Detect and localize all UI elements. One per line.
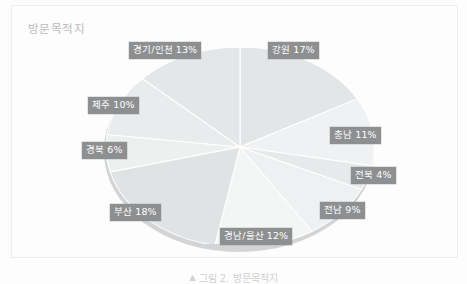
pie-label-busan: 부산 18% [110,204,161,221]
pie-label-jeonnam: 전남 9% [320,202,365,219]
figure-caption: ▲그림 2. 방문목적지 [0,270,467,284]
pie-label-gyeongnam-ulsan: 경남/울산 12% [220,228,292,245]
pie-label-chungnam: 충남 11% [330,127,381,144]
pie-label-jeonbuk: 전북 4% [351,167,396,184]
caption-text: 그림 2. 방문목적지 [199,273,278,284]
pie-label-gangwon: 강원 17% [268,42,319,59]
scanned-page: 방문목적지 경기/인천 13% 강원 17% 제주 10% 충남 11% 경북 … [0,0,467,284]
pie-label-gyeonggi-incheon: 경기/인천 13% [129,42,201,59]
pie-chart [0,0,467,262]
pie-label-jeju: 제주 10% [88,97,139,114]
pie-label-gyeongbuk: 경북 6% [82,142,127,159]
caption-marker-icon: ▲ [189,273,195,282]
